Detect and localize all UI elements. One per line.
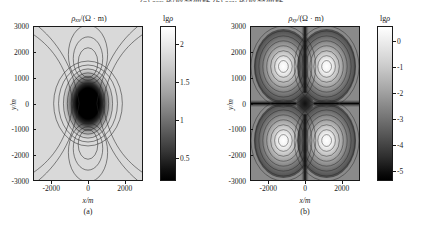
panel-a-ytick--2000: -2000 — [0, 151, 29, 160]
panel-b-ytick-1000: 1000 — [217, 73, 246, 82]
panel-a-colorbar-title: lgρ — [148, 14, 188, 23]
panel-a-ytick-1000: 1000 — [0, 73, 29, 82]
panel-b-ytick--2000: -2000 — [217, 151, 246, 160]
panel-a-cbmark-2 — [176, 44, 179, 45]
panel-a-cbmark-1p5 — [176, 82, 179, 83]
panel-a-ytick--1000: -1000 — [0, 125, 29, 134]
panel-a-colorbar — [160, 26, 176, 181]
figure-root: (a) ρxx 的拟合曲线 (b) ρxy 的拟合曲线 ρxx/(Ω · m) … — [0, 0, 423, 231]
panel-b-cbmark--2 — [393, 93, 396, 94]
panel-b-field — [251, 27, 359, 180]
panel-a-xtick--2000: -2000 — [43, 184, 61, 193]
panel-b-cbtick--5: -5 — [397, 167, 403, 176]
panel-a-colorbar-rho: ρ — [169, 14, 173, 23]
panel-a-cbtick-0p5: 0.5 — [180, 154, 189, 163]
panel-b-ytickmark--2000 — [250, 155, 253, 156]
panel-b-title: ρxy/(Ω · m) — [250, 14, 362, 23]
panel-a-title: ρxx/(Ω · m) — [33, 14, 145, 23]
panel-a-ytickmark-1000 — [33, 78, 36, 79]
panel-a-cbmark-1 — [176, 120, 179, 121]
panel-b-cbmark--4 — [393, 145, 396, 146]
panel-a-field — [34, 27, 142, 180]
panel-b-cbtick--1: -1 — [397, 63, 403, 72]
panel-a-ytickmark-2000 — [33, 52, 36, 53]
panel-b-cbtick-0: 0 — [397, 37, 401, 46]
panel-a-cbmark-0p5 — [176, 158, 179, 159]
panel-b-cbtick--4: -4 — [397, 141, 403, 150]
panel-a-ytickmark-0 — [33, 104, 36, 105]
panel-b-subplot-label: (b) — [250, 207, 360, 216]
panel-b-colorbar — [377, 26, 393, 181]
panel-b: ρxy/(Ω · m) lgρ — [215, 0, 423, 231]
panel-b-cbmark--5 — [393, 171, 396, 172]
panel-b-ylabel: y/m — [226, 90, 235, 120]
panel-a-ytick-3000: 3000 — [0, 22, 29, 31]
panel-b-ytickmark--1000 — [250, 129, 253, 130]
panel-b-cbmark-0 — [393, 41, 396, 42]
panel-a-axes — [33, 26, 143, 181]
panel-b-colorbar-rho: ρ — [386, 14, 390, 23]
panel-a-xlabel: x/m — [33, 196, 143, 205]
panel-b-ytickmark-1000 — [250, 78, 253, 79]
panel-b-ytick-2000: 2000 — [217, 47, 246, 56]
panel-a-cbtick-1p5: 1.5 — [180, 78, 189, 87]
panel-a-subplot-label: (a) — [33, 207, 143, 216]
panel-b-ytickmark-2000 — [250, 52, 253, 53]
panel-a-cbtick-1: 1 — [180, 116, 184, 125]
panel-b-axes — [250, 26, 360, 181]
panel-b-xtick-0: 0 — [303, 184, 307, 193]
panel-a: ρxx/(Ω · m) lgρ — [0, 0, 205, 231]
panel-a-ylabel: y/m — [9, 90, 18, 120]
panel-a-ytick-2000: 2000 — [0, 47, 29, 56]
panel-b-cbmark--3 — [393, 119, 396, 120]
panel-b-ytick--3000: -3000 — [217, 177, 246, 186]
panel-b-cbmark--1 — [393, 67, 396, 68]
panel-b-xlabel: x/m — [250, 196, 360, 205]
panel-a-xtick-2000: 2000 — [117, 184, 132, 193]
panel-a-cbtick-2: 2 — [180, 40, 184, 49]
panel-b-cbtick--2: -2 — [397, 89, 403, 98]
panel-a-ytickmark--2000 — [33, 155, 36, 156]
panel-b-colorbar-title: lgρ — [365, 14, 405, 23]
panel-b-ytick--1000: -1000 — [217, 125, 246, 134]
panel-b-title-units: /(Ω · m) — [297, 14, 323, 23]
panel-a-ytick--3000: -3000 — [0, 177, 29, 186]
panel-a-ytickmark--1000 — [33, 129, 36, 130]
panel-a-title-units: /(Ω · m) — [80, 14, 106, 23]
panel-b-ytick-3000: 3000 — [217, 22, 246, 31]
panel-b-ytickmark-0 — [250, 104, 253, 105]
panel-b-xtick--2000: -2000 — [260, 184, 278, 193]
panel-b-xtick-2000: 2000 — [334, 184, 349, 193]
panel-a-xtick-0: 0 — [86, 184, 90, 193]
panel-b-cbtick--3: -3 — [397, 115, 403, 124]
